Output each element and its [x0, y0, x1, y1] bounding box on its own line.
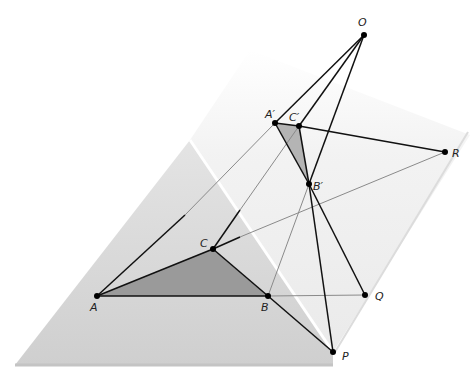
label-A: A	[89, 301, 98, 314]
label-B: B	[261, 301, 269, 314]
label-C: C	[200, 237, 208, 250]
label-A-prime: A′	[264, 108, 276, 121]
label-Q: Q	[375, 290, 384, 303]
point-B-prime	[306, 181, 312, 187]
label-P: P	[342, 350, 349, 363]
point-R	[442, 149, 448, 155]
point-P	[330, 349, 336, 355]
point-O	[361, 32, 367, 38]
point-C	[210, 246, 216, 252]
label-B-prime: B′	[313, 180, 324, 193]
label-O: O	[358, 16, 367, 29]
point-A	[94, 293, 100, 299]
label-C-prime: C′	[289, 111, 300, 124]
desargues-diagram: O A′ C′ B′ R A C B Q P	[0, 0, 474, 379]
label-R: R	[452, 147, 460, 160]
point-B	[265, 293, 271, 299]
point-Q	[362, 292, 368, 298]
